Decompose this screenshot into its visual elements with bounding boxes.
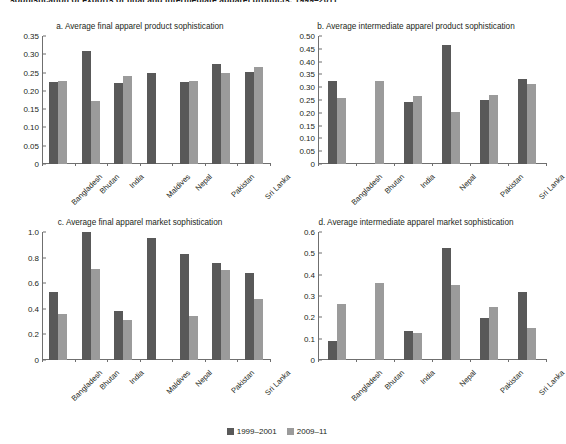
panel-b-x-labels: BangladeshBhutanIndiaNepalPakistanSri La… bbox=[318, 164, 546, 220]
x-axis-label: India bbox=[128, 368, 146, 386]
bar bbox=[147, 238, 156, 360]
bar bbox=[442, 248, 451, 360]
y-tick-label: 0.2 bbox=[28, 330, 43, 339]
bar-group bbox=[318, 232, 356, 360]
y-tick-label: 0.35 bbox=[23, 32, 43, 41]
y-tick-label: 1.0 bbox=[28, 228, 43, 237]
x-axis-label: Nepal bbox=[457, 368, 477, 388]
bar bbox=[123, 320, 132, 360]
bar bbox=[337, 304, 346, 360]
legend-swatch bbox=[227, 428, 234, 435]
panel-a-plot-area: 00.050.100.150.200.250.300.35BangladeshB… bbox=[42, 36, 270, 164]
x-axis-label: India bbox=[128, 172, 146, 190]
bar bbox=[527, 84, 536, 164]
bar bbox=[114, 311, 123, 360]
figure-legend: 1999–20012009–11 bbox=[0, 427, 554, 436]
bar-group bbox=[172, 36, 205, 164]
y-tick-label: 0.30 bbox=[23, 50, 43, 59]
y-tick-label: 0.1 bbox=[304, 334, 319, 343]
x-axis-label: India bbox=[418, 172, 436, 190]
bar bbox=[489, 307, 498, 360]
bar bbox=[221, 270, 230, 360]
y-tick-label: 0.25 bbox=[23, 68, 43, 77]
y-tick-label: 0.05 bbox=[23, 141, 43, 150]
bar bbox=[189, 316, 198, 360]
bar-group bbox=[140, 232, 173, 360]
bar bbox=[91, 269, 100, 360]
bar bbox=[49, 292, 58, 360]
panel-b-plot-area: 00.050.100.150.200.250.300.350.400.450.5… bbox=[318, 36, 546, 164]
panel-d-plot-area: 00.10.20.30.40.50.6BangladeshBhutanIndia… bbox=[318, 232, 546, 360]
x-tick-mark bbox=[270, 359, 271, 362]
bar bbox=[480, 318, 489, 360]
y-tick-label: 0.6 bbox=[28, 279, 43, 288]
bar bbox=[451, 285, 460, 360]
x-axis-label: Sri Lanka bbox=[537, 368, 566, 397]
bar-group bbox=[42, 232, 75, 360]
x-axis-label: Nepal bbox=[457, 172, 477, 192]
x-axis-label: Pakistan bbox=[229, 368, 256, 395]
panel-c-bars bbox=[42, 232, 270, 360]
bar-group bbox=[508, 36, 546, 164]
panel-a-bars bbox=[42, 36, 270, 164]
legend-item: 2009–11 bbox=[287, 427, 328, 436]
bar-group bbox=[205, 232, 238, 360]
bar bbox=[527, 328, 536, 360]
bar bbox=[442, 45, 451, 164]
bar bbox=[49, 82, 58, 164]
bar bbox=[245, 273, 254, 360]
bar bbox=[123, 76, 132, 164]
bar-group bbox=[356, 232, 394, 360]
x-tick-mark bbox=[270, 163, 271, 166]
bar-group bbox=[107, 36, 140, 164]
y-tick-label: 0.4 bbox=[304, 270, 319, 279]
panel-c-plot-area: 00.20.40.60.81.0BangladeshBhutanIndiaMal… bbox=[42, 232, 270, 360]
panel-c: c. Average final apparel market sophisti… bbox=[4, 218, 276, 408]
bar-group bbox=[432, 36, 470, 164]
y-tick-label: 0.30 bbox=[299, 83, 319, 92]
bar bbox=[480, 100, 489, 164]
panel-a-title: a. Average final apparel product sophist… bbox=[4, 22, 276, 31]
bar bbox=[413, 333, 422, 360]
x-axis-label: Nepal bbox=[194, 368, 214, 388]
x-axis-label: Bangladesh bbox=[349, 172, 384, 207]
bar bbox=[328, 81, 337, 164]
bar-group bbox=[508, 232, 546, 360]
bar bbox=[212, 64, 221, 164]
y-tick-label: 0.6 bbox=[304, 228, 319, 237]
bar bbox=[212, 263, 221, 360]
bar-group bbox=[318, 36, 356, 164]
x-axis-label: Nepal bbox=[194, 172, 214, 192]
x-axis-label: Maldives bbox=[164, 368, 192, 396]
bar bbox=[404, 331, 413, 360]
bar-group bbox=[237, 232, 270, 360]
y-tick-label: 0.10 bbox=[299, 134, 319, 143]
bar bbox=[245, 72, 254, 164]
panel-c-x-labels: BangladeshBhutanIndiaMaldivesNepalPakist… bbox=[42, 360, 270, 416]
y-tick-label: 0.3 bbox=[304, 292, 319, 301]
y-tick-label: 0.4 bbox=[28, 304, 43, 313]
bar-group bbox=[140, 36, 173, 164]
x-axis-label: Bhutan bbox=[382, 172, 405, 195]
y-tick-label: 0.40 bbox=[299, 57, 319, 66]
bar-group bbox=[470, 232, 508, 360]
x-axis-label: Sri Lanka bbox=[537, 172, 566, 201]
bar-group bbox=[432, 232, 470, 360]
bar-group bbox=[172, 232, 205, 360]
legend-label: 1999–2001 bbox=[237, 427, 277, 436]
y-tick-label: 0.50 bbox=[299, 32, 319, 41]
bar-group bbox=[205, 36, 238, 164]
panel-a: a. Average final apparel product sophist… bbox=[4, 22, 276, 212]
bar bbox=[254, 299, 263, 360]
panel-b-bars bbox=[318, 36, 546, 164]
bar bbox=[114, 83, 123, 164]
x-axis-label: Pakistan bbox=[229, 172, 256, 199]
legend-swatch bbox=[287, 428, 294, 435]
x-axis-label: Bangladesh bbox=[349, 368, 384, 403]
x-tick-mark bbox=[546, 163, 547, 166]
y-tick-label: 0.5 bbox=[304, 249, 319, 258]
bar-group bbox=[470, 36, 508, 164]
bar bbox=[375, 283, 384, 360]
bar-group bbox=[75, 36, 108, 164]
